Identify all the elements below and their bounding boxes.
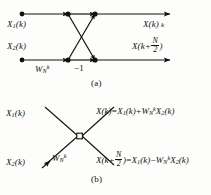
panel-b-equation-bottom: X(k+N2)=X1(k)−WNkX2(k): [96, 151, 189, 168]
panel-b-input-bottom-label: X2(k): [6, 158, 25, 168]
edge-in-top: [45, 107, 78, 136]
butterfly-flow-graph-a: [0, 0, 211, 95]
panel-a-input-top-label: X1(k): [7, 20, 26, 30]
panel-a-caption: (a): [91, 78, 102, 88]
node-top-left: [65, 11, 70, 16]
panel-b-twiddle-label: WNk: [52, 153, 67, 164]
panel-a: X1(k) X2(k) X(k)k X(k+N2) WNk −1 (a): [0, 0, 211, 95]
panel-a-output-top-label: X(k)k: [143, 20, 164, 29]
panel-b-caption: (b): [91, 174, 102, 184]
panel-a-input-bottom-label: X2(k): [7, 42, 26, 52]
panel-a-minus-one-label: −1: [74, 64, 84, 73]
node-bottom-right: [92, 57, 97, 62]
figure-page: X1(k) X2(k) X(k)k X(k+N2) WNk −1 (a): [0, 0, 211, 195]
panel-a-output-bottom-label: X(k+N2): [132, 37, 163, 54]
node-top-right: [92, 11, 97, 16]
node-center: [77, 133, 83, 139]
node-bottom-left: [65, 57, 70, 62]
node-input-top: [20, 12, 25, 17]
panel-b: X1(k) X2(k) WNk X(k)=X1(k)+WNkX2(k) X(k+…: [0, 95, 211, 195]
edge-in-bottom-arrow: [42, 161, 50, 168]
panel-b-equation-top: X(k)=X1(k)+WNkX2(k): [96, 105, 174, 116]
node-input-bottom: [20, 58, 25, 63]
panel-a-twiddle-label: WNk: [35, 64, 50, 75]
panel-b-input-top-label: X1(k): [6, 109, 25, 119]
